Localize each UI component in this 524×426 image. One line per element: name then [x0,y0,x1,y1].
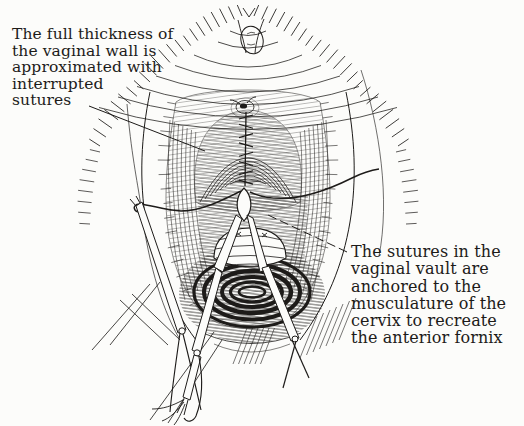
hemostat-clamp [183,355,201,400]
annotation-line: vaginal vault are [351,260,506,277]
annotation-vault-sutures: The sutures in the vaginal vault are anc… [351,243,506,347]
annotation-line: The full thickness of [12,26,173,43]
annotation-line: anchored to the [351,278,506,295]
annotation-line: interrupted [12,76,173,93]
illustration-canvas: The full thickness of the vaginal wall i… [0,0,524,426]
annotation-line: sutures [12,92,173,109]
annotation-line: the vaginal wall is [12,43,173,60]
annotation-line: The sutures in the [351,243,506,260]
clitoral-hood [218,8,278,56]
suture-knot [240,103,247,108]
annotation-line: the anterior fornix [351,329,506,346]
annotation-line: approximated with [12,59,173,76]
annotation-full-thickness: The full thickness of the vaginal wall i… [12,26,173,109]
annotation-line: cervix to recreate [351,312,506,329]
annotation-line: musculature of the [351,295,506,312]
